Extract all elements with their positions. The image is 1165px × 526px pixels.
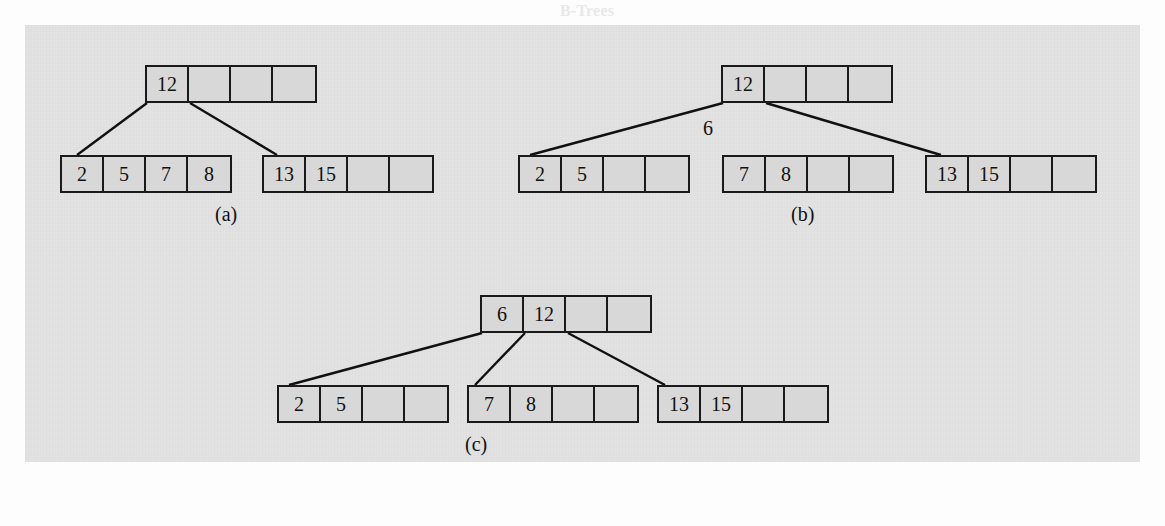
cell-c-leaf1-1: 8 [511,387,553,421]
cell-c-leaf2-2 [743,387,785,421]
cell-c-leaf2-0: 13 [659,387,701,421]
cell-a-leaf0-3: 8 [188,157,230,191]
edge-a-right [190,103,277,155]
cell-b-leaf0-1: 5 [562,157,604,191]
cell-a-root-2 [231,67,273,101]
edge-b-right [766,103,941,155]
cell-a-leaf0-1: 5 [104,157,146,191]
cell-c-leaf2-3 [785,387,827,421]
node-b-leaf-1: 7 8 [722,155,894,193]
cell-c-leaf0-3 [405,387,447,421]
cell-b-leaf2-1: 15 [969,157,1011,191]
node-a-root: 12 [145,65,317,103]
cell-a-root-0: 12 [147,67,189,101]
edge-a-left [77,103,147,155]
figure-page: B-Trees Insertion into a B-Tree sorted o… [0,0,1165,526]
node-c-leaf-1: 7 8 [467,385,639,423]
cell-a-leaf1-2 [348,157,390,191]
ghost-top-heading: B-Trees [560,2,614,20]
cell-c-leaf0-0: 2 [279,387,321,421]
cell-a-root-3 [273,67,315,101]
node-b-root: 12 [721,65,893,103]
label-b-promoted-key: 6 [703,117,713,140]
cell-a-leaf0-0: 2 [62,157,104,191]
node-c-root: 6 12 [480,295,652,333]
cell-b-leaf0-0: 2 [520,157,562,191]
cell-c-leaf1-3 [595,387,637,421]
cell-a-root-1 [189,67,231,101]
cell-b-leaf0-3 [646,157,688,191]
cell-a-leaf1-0: 13 [264,157,306,191]
cell-b-leaf2-3 [1053,157,1095,191]
cell-c-root-0: 6 [482,297,524,331]
cell-b-leaf0-2 [604,157,646,191]
cell-a-leaf1-1: 15 [306,157,348,191]
cell-b-leaf2-0: 13 [927,157,969,191]
cell-c-leaf1-0: 7 [469,387,511,421]
cell-b-root-0: 12 [723,67,765,101]
node-b-leaf-2: 13 15 [925,155,1097,193]
cell-c-root-3 [608,297,650,331]
cell-c-root-1: 12 [524,297,566,331]
cell-c-root-2 [566,297,608,331]
cell-c-leaf1-2 [553,387,595,421]
cell-b-leaf2-2 [1011,157,1053,191]
cell-c-leaf2-1: 15 [701,387,743,421]
node-a-leaf-1: 13 15 [262,155,434,193]
cell-b-root-3 [849,67,891,101]
edge-c-middle [475,333,525,385]
cell-c-leaf0-1: 5 [321,387,363,421]
node-c-leaf-2: 13 15 [657,385,829,423]
node-c-leaf-0: 2 5 [277,385,449,423]
caption-a: (a) [215,203,237,226]
figure-plate: 12 2 5 7 8 13 15 (a) 12 6 2 5 [25,25,1140,462]
cell-b-root-1 [765,67,807,101]
node-b-leaf-0: 2 5 [518,155,690,193]
cell-b-leaf1-0: 7 [724,157,766,191]
caption-c: (c) [465,433,487,456]
edge-c-right [568,333,665,385]
cell-b-leaf1-3 [850,157,892,191]
cell-a-leaf0-2: 7 [146,157,188,191]
cell-b-leaf1-2 [808,157,850,191]
node-a-leaf-0: 2 5 7 8 [60,155,232,193]
cell-b-leaf1-1: 8 [766,157,808,191]
caption-b: (b) [791,203,814,226]
cell-b-root-2 [807,67,849,101]
cell-a-leaf1-3 [390,157,432,191]
edge-b-left [530,103,723,155]
edge-c-left [289,333,482,385]
cell-c-leaf0-2 [363,387,405,421]
